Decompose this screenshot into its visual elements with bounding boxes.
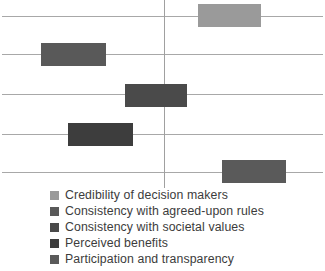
- legend-item-label: Credibility of decision makers: [65, 187, 228, 203]
- legend-item: Credibility of decision makers: [50, 187, 325, 203]
- bar-credibility-of-decision-makers: [198, 4, 261, 27]
- legend-swatch-icon: [50, 255, 59, 264]
- legend-swatch-icon: [50, 191, 59, 200]
- legend-item: Participation and transparency: [50, 251, 325, 267]
- legend-item: Perceived benefits: [50, 235, 325, 251]
- legend-swatch-icon: [50, 223, 59, 232]
- legend-item-label: Participation and transparency: [65, 251, 234, 267]
- legend-item-label: Consistency with societal values: [65, 219, 245, 235]
- legend-swatch-icon: [50, 239, 59, 248]
- bar-consistency-with-societal-values: [125, 84, 187, 107]
- legend-item-label: Perceived benefits: [65, 235, 168, 251]
- forest-plot-chart: Credibility of decision makers Consisten…: [0, 0, 325, 271]
- plot-area: [0, 0, 325, 188]
- bar-participation-and-transparency: [222, 160, 286, 183]
- whisker-line-row-1: [2, 16, 323, 17]
- bar-perceived-benefits: [68, 123, 133, 146]
- legend-item: Consistency with agreed-upon rules: [50, 203, 325, 219]
- bar-consistency-with-agreed-upon-rules: [41, 43, 106, 66]
- legend-swatch-icon: [50, 207, 59, 216]
- chart-legend: Credibility of decision makers Consisten…: [50, 187, 325, 267]
- legend-item: Consistency with societal values: [50, 219, 325, 235]
- legend-item-label: Consistency with agreed-upon rules: [65, 203, 264, 219]
- whisker-line-row-4: [2, 134, 323, 135]
